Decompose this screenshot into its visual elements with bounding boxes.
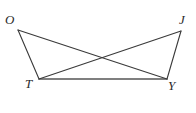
geometry-canvas xyxy=(0,0,196,113)
vertex-label-J: J xyxy=(179,13,185,26)
segment-TJ-diagonal xyxy=(39,31,181,79)
geometry-figure: O J T Y xyxy=(0,0,196,113)
segment-JY xyxy=(167,31,181,79)
segment-OY-diagonal xyxy=(18,30,167,79)
vertex-label-Y: Y xyxy=(168,79,175,92)
vertex-label-T: T xyxy=(25,77,32,90)
segment-OT xyxy=(18,30,39,79)
vertex-label-O: O xyxy=(5,13,14,26)
